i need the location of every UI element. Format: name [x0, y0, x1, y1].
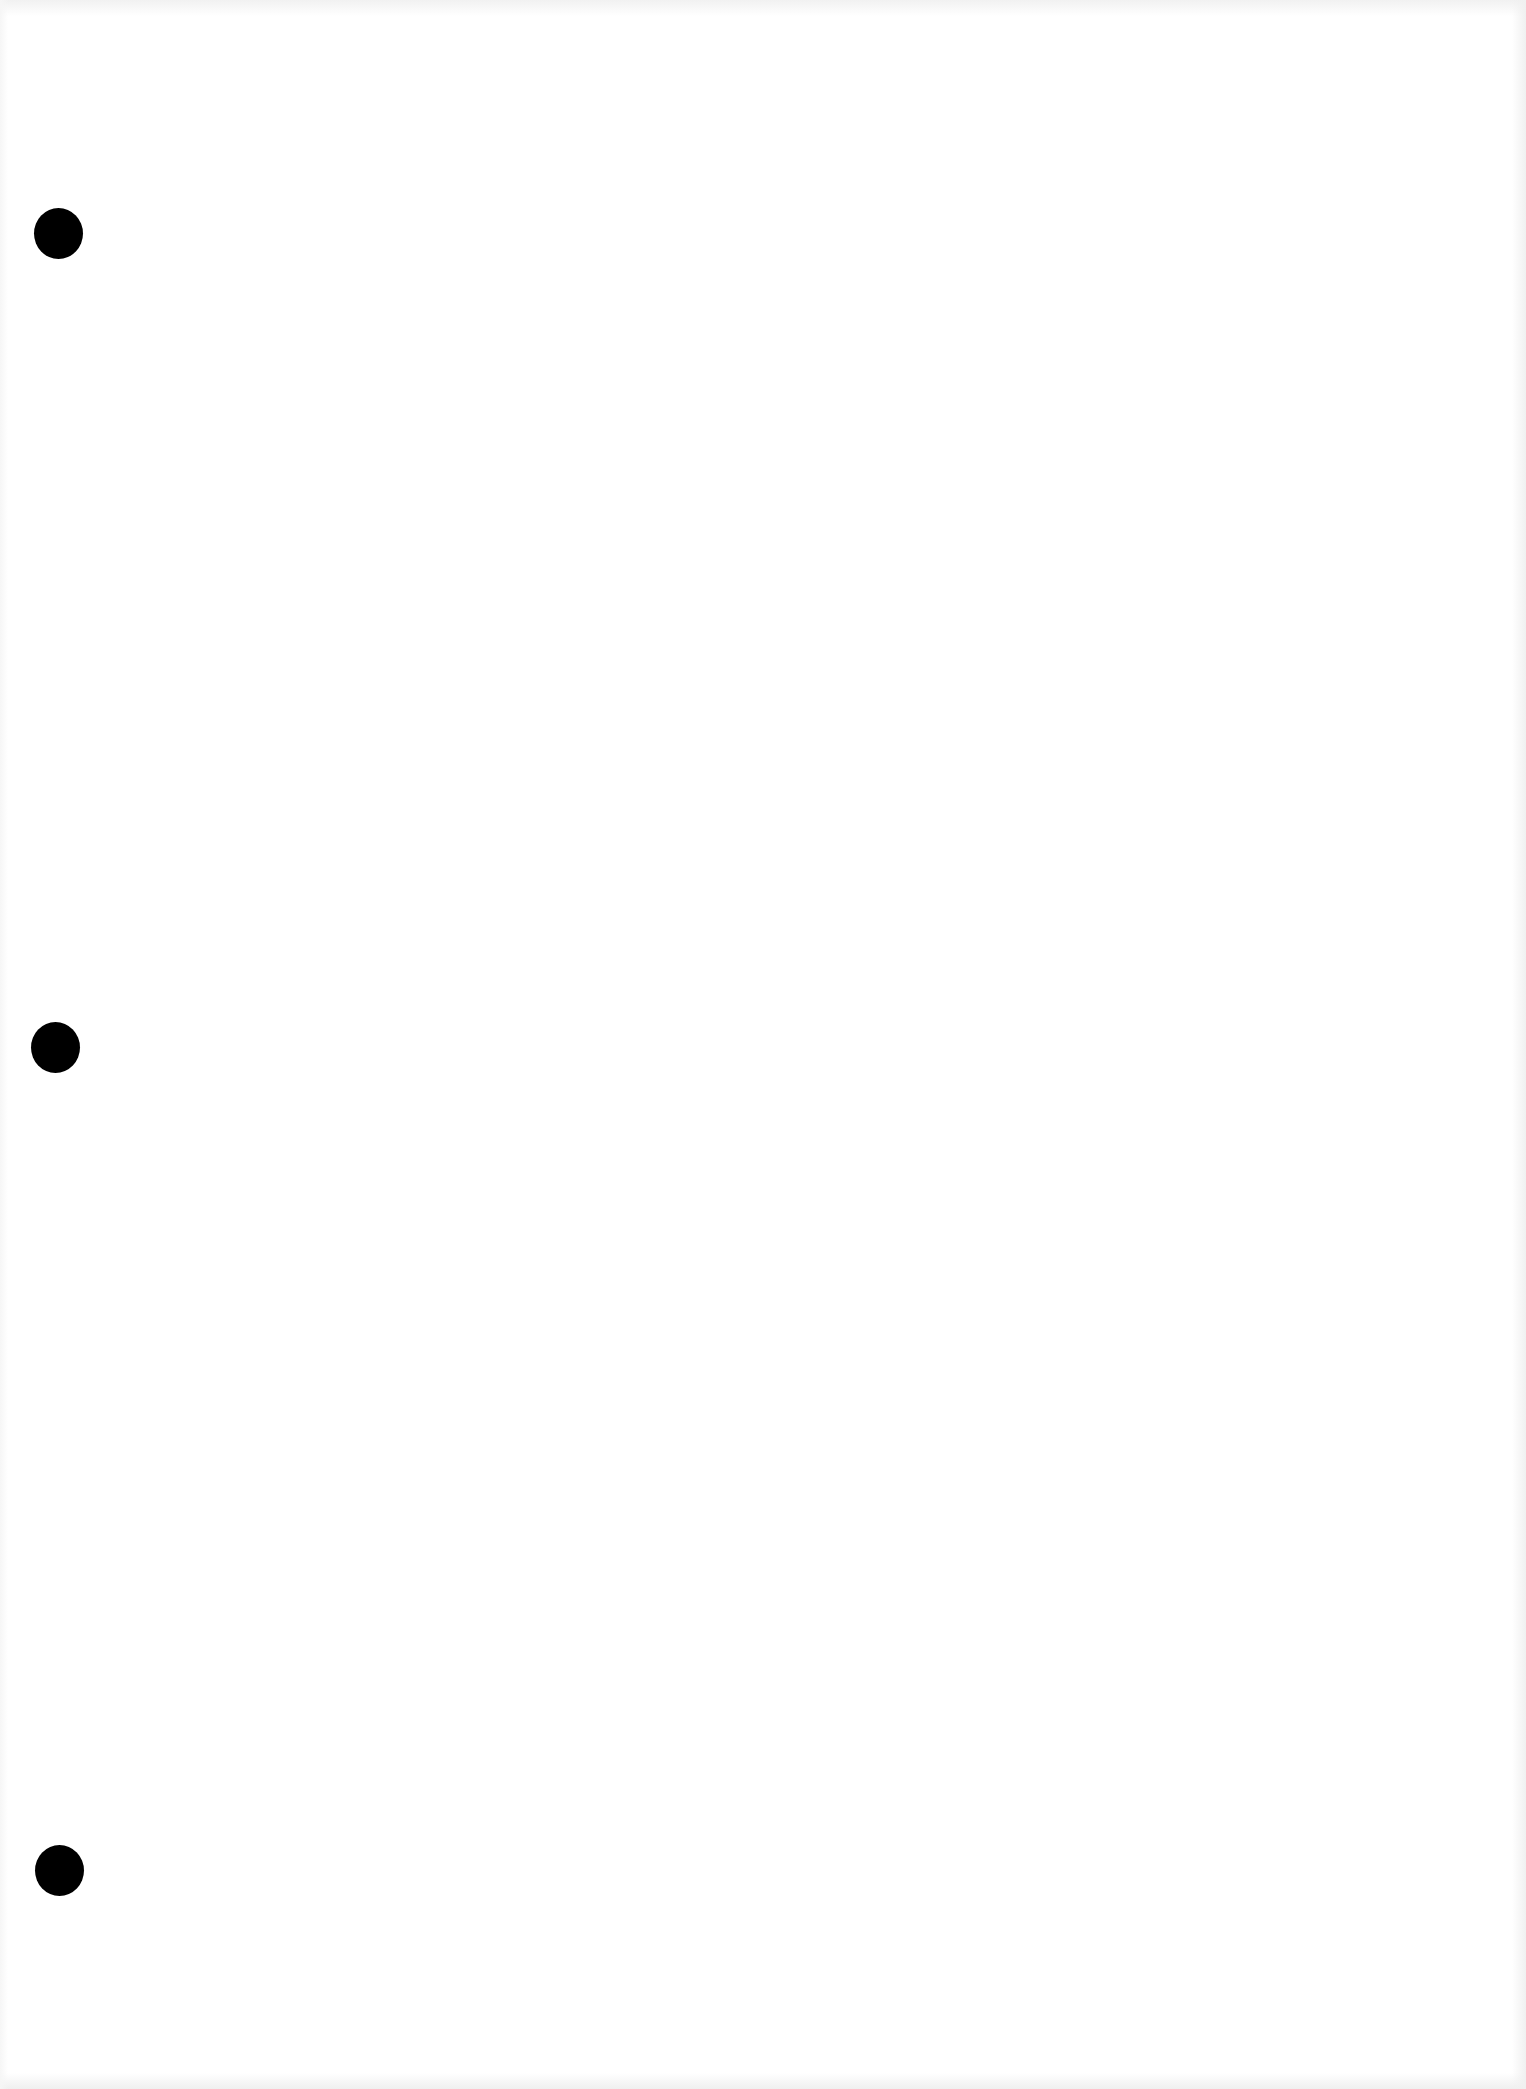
punch-hole-middle: [31, 1022, 80, 1073]
scan-edge-shadow-left: [0, 0, 8, 2089]
scan-edge-shadow-top: [0, 0, 1526, 16]
scan-edge-shadow-right: [1512, 0, 1526, 2089]
blank-paper-page: [0, 0, 1526, 2089]
punch-hole-bottom: [35, 1845, 84, 1896]
punch-hole-top: [34, 208, 83, 259]
scan-edge-shadow-bottom: [0, 2073, 1526, 2089]
